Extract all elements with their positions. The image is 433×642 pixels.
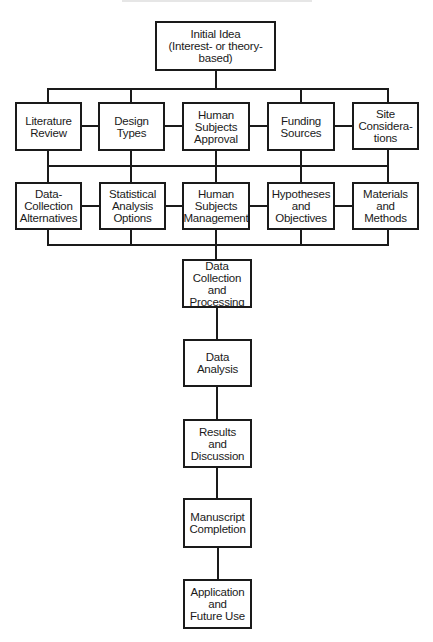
node-statistical-analysis-options: Statistical Analysis Options [99,182,166,230]
node-human-subjects-approval: Human Subjects Approval [182,102,250,151]
node-label: Data Collection and Processing [184,260,250,308]
link-row2-1-2 [81,205,99,207]
bus-row2-top [47,165,389,167]
link-row2-4-5 [334,205,352,207]
link-row2-2-3 [165,205,183,207]
connector-row1-5-top [387,88,389,102]
connector-spine-1 [215,229,217,260]
connector-spine-4 [216,467,218,498]
node-label: Application and Future Use [190,586,245,622]
link-row1-2-3 [164,125,183,127]
top-crop-artifact [122,0,312,2]
connector-row1-2-top [130,88,132,102]
connector-row1-1-top [47,88,49,102]
node-label: Manuscript Completion [189,511,245,535]
node-label: Results and Discussion [191,426,245,462]
node-site-considerations: Site Considera- tions [352,102,419,150]
node-label: Data Analysis [197,351,238,375]
node-label: Statistical Analysis Options [109,188,156,224]
node-label: Human Subjects Management [183,188,248,224]
node-manuscript-completion: Manuscript Completion [183,498,252,548]
connector-spine-3 [216,386,218,419]
node-application-future-use: Application and Future Use [183,579,252,629]
node-label: Site Considera- tions [358,108,412,144]
node-materials-and-methods: Materials and Methods [352,182,419,230]
node-design-types: Design Types [98,102,165,151]
bus-row1-top [47,88,389,90]
node-label: Hypotheses and Objectives [272,188,331,224]
connector-row1-4-top [300,88,302,102]
node-label: Literature Review [25,115,72,139]
connector-root-down [215,70,217,90]
node-label: Materials and Methods [363,188,408,224]
node-label: Human Subjects Approval [194,109,238,145]
connector-spine-5 [217,547,219,579]
node-label: Design Types [114,115,149,139]
node-hypotheses-and-objectives: Hypotheses and Objectives [267,182,335,230]
node-results-discussion: Results and Discussion [183,419,252,468]
link-row1-4-5 [334,125,352,127]
node-data-collection-processing: Data Collection and Processing [182,259,252,308]
link-row1-3-4 [249,125,267,127]
research-process-flowchart: Initial Idea (Interest- or theory-based)… [0,0,433,642]
node-data-analysis: Data Analysis [183,339,252,387]
link-row2-3-4 [249,205,267,207]
node-label: Data- Collection Alternatives [20,188,78,224]
node-label: Funding Sources [281,115,322,139]
connector-spine-2 [216,307,218,339]
node-funding-sources: Funding Sources [267,102,335,151]
bus-row2-bottom [47,244,389,246]
node-data-collection-alternatives: Data- Collection Alternatives [15,182,82,230]
node-label: Initial Idea (Interest- or theory-based) [157,28,274,64]
node-human-subjects-management: Human Subjects Management [182,182,250,230]
node-initial-idea: Initial Idea (Interest- or theory-based) [155,21,276,71]
node-literature-review: Literature Review [15,102,82,151]
link-row1-1-2 [81,125,98,127]
